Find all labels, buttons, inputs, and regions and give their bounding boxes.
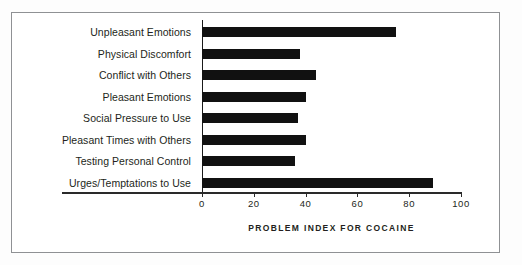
- bar-category-label: Physical Discomfort: [98, 48, 191, 60]
- bar: [202, 113, 298, 123]
- bar-row: Conflict with Others: [0, 65, 522, 87]
- bar: [202, 27, 396, 37]
- bar-category-label: Conflict with Others: [99, 69, 191, 81]
- x-axis-tick-label: 20: [248, 198, 260, 209]
- bar-category-label: Urges/Temptations to Use: [69, 177, 191, 189]
- bar: [202, 92, 306, 102]
- bar-row: Urges/Temptations to Use: [0, 172, 522, 194]
- bar: [202, 156, 295, 166]
- bar-category-label: Unpleasant Emotions: [90, 26, 191, 38]
- bar: [202, 49, 300, 59]
- chart-figure: Unpleasant EmotionsPhysical DiscomfortCo…: [0, 0, 522, 265]
- bar-row: Testing Personal Control: [0, 151, 522, 173]
- x-axis-tick-label: 40: [300, 198, 312, 209]
- bar: [202, 70, 316, 80]
- x-axis-tick: [254, 192, 255, 197]
- x-axis-tick: [409, 192, 410, 197]
- bar-category-label: Testing Personal Control: [75, 155, 191, 167]
- x-axis-tick-label: 100: [452, 198, 470, 209]
- x-axis-tick: [461, 192, 462, 197]
- bar-row: Pleasant Emotions: [0, 86, 522, 108]
- bar: [202, 178, 433, 188]
- bar-category-label: Pleasant Times with Others: [62, 134, 191, 146]
- x-axis-tick: [357, 192, 358, 197]
- bar-row: Unpleasant Emotions: [0, 22, 522, 44]
- x-axis-tick: [306, 192, 307, 197]
- bar-row: Social Pressure to Use: [0, 108, 522, 130]
- x-axis-tick-label: 0: [199, 198, 205, 209]
- bar-category-label: Pleasant Emotions: [103, 91, 191, 103]
- bar: [202, 135, 306, 145]
- x-axis-tick-label: 60: [352, 198, 364, 209]
- bar-row: Pleasant Times with Others: [0, 129, 522, 151]
- x-axis-title: PROBLEM INDEX FOR COCAINE: [202, 223, 461, 233]
- x-axis-tick: [202, 192, 203, 197]
- bar-category-label: Social Pressure to Use: [83, 112, 191, 124]
- x-axis-tick-label: 80: [403, 198, 415, 209]
- plot-area: Unpleasant EmotionsPhysical DiscomfortCo…: [0, 0, 522, 265]
- bar-row: Physical Discomfort: [0, 43, 522, 65]
